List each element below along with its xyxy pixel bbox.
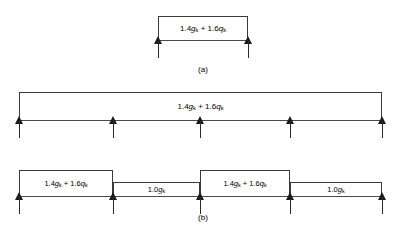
figure-b2-load-box-span-2: 1.0gk [113,182,200,196]
figure-b-caption: (b) [158,214,248,222]
load-subscript-k: k [238,182,241,188]
figure-b1-support-3 [196,116,205,138]
arrow-shaft [158,41,159,58]
load-operator-plus: + 1.6 [241,179,260,188]
figure-b2-load-label-span-1: 1.4gk + 1.6qk [20,180,112,188]
figure-a-load-label-span-1: 1.4gk + 1.6qk [159,25,247,33]
figure-b2-load-box-span-4: 1.0gk [290,182,382,196]
load-subscript-k: k [193,105,196,111]
figure-b2-load-label-span-2: 1.0gk [114,186,199,194]
load-operator-plus: + 1.6 [198,24,218,33]
load-subscript-k: k [223,27,226,33]
arrow-shaft [382,121,383,138]
load-symbol-g: g [191,24,195,33]
figure-b2-load-label-span-3: 1.4gk + 1.6qk [201,180,289,188]
load-subscript-k: k [162,188,165,194]
arrow-shaft [200,121,201,138]
arrow-shaft [290,197,291,214]
figure-a-support-1 [154,36,163,58]
figure-b2-load-label-span-4: 1.0gk [291,186,381,194]
load-subscript-k: k [342,188,345,194]
arrow-shaft [382,197,383,214]
load-operator-plus: + 1.6 [62,179,81,188]
figure-a-beam-line [158,40,248,41]
figure-b1-support-5 [378,116,387,138]
load-coefficient-dead: 1.0 [327,185,337,194]
load-subscript-k: k [59,182,62,188]
figure-a-load-box-span-1: 1.4gk + 1.6qk [158,16,248,40]
load-coefficient-dead: 1.4 [44,179,54,188]
figure-b2-load-box-span-3: 1.4gk + 1.6qk [200,170,290,196]
figure-a-support-2 [244,36,253,58]
figure-b2-support-5 [378,192,387,214]
figure-a-caption: (a) [158,66,248,74]
load-subscript-k: k [221,105,224,111]
arrow-shaft [113,197,114,214]
figure-b2-support-1 [15,192,24,214]
arrow-shaft [19,197,20,214]
load-coefficient-dead: 1.4 [180,24,191,33]
load-coefficient-dead: 1.0 [148,185,158,194]
load-subscript-k: k [85,182,88,188]
figure-b2-support-3 [196,192,205,214]
arrow-shaft [248,41,249,58]
figure-b1-support-1 [15,116,24,138]
figure-b2-support-4 [286,192,295,214]
figure-b1-support-4 [286,116,295,138]
load-subscript-k: k [264,182,267,188]
load-operator-plus: + 1.6 [196,102,216,111]
figure-b2-load-box-span-1: 1.4gk + 1.6qk [19,170,113,196]
load-symbol-q: q [216,102,220,111]
arrow-shaft [19,121,20,138]
load-coefficient-dead: 1.4 [177,102,188,111]
figure-b1-support-2 [109,116,118,138]
figure-b1-load-label: 1.4gk + 1.6qk [20,103,381,111]
arrow-shaft [200,197,201,214]
figure-b2-support-2 [109,192,118,214]
arrow-shaft [290,121,291,138]
load-coefficient-dead: 1.4 [223,179,233,188]
arrow-shaft [113,121,114,138]
